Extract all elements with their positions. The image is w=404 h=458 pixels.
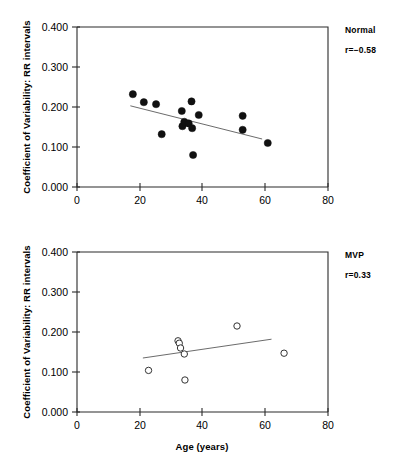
panel-mvp: 0.000 0.100 0.200 0.300 0.400 0 20 40 60…	[0, 225, 404, 458]
data-point	[158, 131, 165, 138]
y-tick-label-4: 0.400	[42, 21, 68, 33]
y-axis-ticks	[72, 27, 80, 187]
panel-normal-svg: 0.000 0.100 0.200 0.300 0.400 0 20 40 60…	[0, 0, 404, 228]
panel-mvp-svg: 0.000 0.100 0.200 0.300 0.400 0 20 40 60…	[0, 225, 404, 458]
y-axis-ticks	[72, 252, 80, 412]
x-tick-label-1: 20	[134, 419, 146, 431]
x-axis-title: Age (years)	[176, 441, 229, 452]
panel-annotation-group: MVP	[345, 250, 364, 260]
panel-annotation-r: r=−0.58	[345, 45, 376, 55]
y-tick-label-0: 0.000	[42, 181, 68, 193]
y-tick-label-1: 0.100	[42, 141, 68, 153]
axis-frame-box	[77, 27, 328, 187]
x-tick-label-2: 40	[196, 419, 208, 431]
data-point	[239, 126, 246, 133]
data-point	[234, 323, 240, 329]
data-point	[140, 99, 147, 106]
data-point	[189, 151, 196, 158]
data-point	[181, 351, 187, 357]
data-point	[177, 345, 183, 351]
panel-annotation-group: Normal	[345, 25, 376, 35]
scatter-points-normal	[129, 91, 271, 159]
data-point	[178, 107, 185, 114]
data-point	[239, 112, 246, 119]
x-axis-tick-labels: 0 20 40 60 80	[74, 419, 334, 431]
y-axis-tick-labels: 0.000 0.100 0.200 0.300 0.400	[42, 21, 68, 193]
x-tick-label-4: 80	[322, 419, 334, 431]
y-tick-label-2: 0.200	[42, 326, 68, 338]
x-tick-label-1: 20	[134, 194, 146, 206]
regression-line	[143, 339, 272, 358]
axis-frame-lines	[77, 27, 328, 187]
x-tick-label-0: 0	[74, 419, 80, 431]
x-tick-label-0: 0	[74, 194, 80, 206]
regression-line	[130, 106, 262, 139]
data-point	[264, 139, 271, 146]
y-tick-label-0: 0.000	[42, 406, 68, 418]
x-tick-label-2: 40	[196, 194, 208, 206]
panel-annotation-r: r=0.33	[345, 270, 371, 280]
data-point	[129, 91, 136, 98]
x-tick-label-4: 80	[322, 194, 334, 206]
y-tick-label-3: 0.300	[42, 286, 68, 298]
y-tick-label-3: 0.300	[42, 61, 68, 73]
data-point	[281, 350, 287, 356]
figure-root: 0.000 0.100 0.200 0.300 0.400 0 20 40 60…	[0, 0, 404, 458]
x-axis-tick-labels: 0 20 40 60 80	[74, 194, 334, 206]
data-point	[145, 367, 151, 373]
panel-normal: 0.000 0.100 0.200 0.300 0.400 0 20 40 60…	[0, 0, 404, 228]
y-axis-tick-labels: 0.000 0.100 0.200 0.300 0.400	[42, 246, 68, 418]
y-axis-title: Coefficient of Variability: RR intervals	[21, 20, 32, 193]
y-tick-label-2: 0.200	[42, 101, 68, 113]
axis-frame-lines	[77, 252, 328, 412]
data-point	[195, 111, 202, 118]
y-axis-title: Coefficient of Variability: RR intervals	[21, 245, 32, 418]
axis-frame-box	[77, 252, 328, 412]
data-point	[182, 377, 188, 383]
data-point	[188, 98, 195, 105]
y-tick-label-4: 0.400	[42, 246, 68, 258]
y-tick-label-1: 0.100	[42, 366, 68, 378]
x-tick-label-3: 60	[259, 419, 271, 431]
x-tick-label-3: 60	[259, 194, 271, 206]
data-point	[152, 101, 159, 108]
scatter-points-mvp	[145, 323, 287, 383]
data-point	[189, 125, 196, 132]
